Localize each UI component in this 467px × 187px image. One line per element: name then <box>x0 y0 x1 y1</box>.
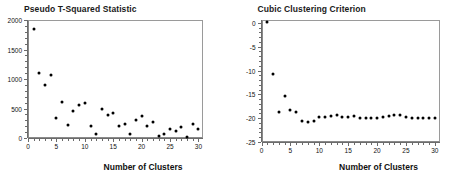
data-point <box>347 115 350 118</box>
data-point <box>422 117 425 120</box>
data-point <box>191 122 194 125</box>
x-axis-minor-tick <box>267 143 268 145</box>
y-axis-tick <box>258 118 261 119</box>
data-point <box>277 110 280 113</box>
x-axis-minor-tick <box>108 139 109 141</box>
y-axis-minor-tick <box>25 55 27 56</box>
plot-area-cubic-clustering-criterion <box>262 20 440 142</box>
y-axis-minor-tick <box>259 104 261 105</box>
x-axis-tick-label: 30 <box>195 143 202 150</box>
data-point <box>117 125 120 128</box>
data-point <box>180 125 183 128</box>
y-axis-minor-tick <box>259 37 261 38</box>
data-point <box>174 130 177 133</box>
data-point <box>358 116 361 119</box>
y-axis-tick <box>258 23 261 24</box>
data-point <box>163 132 166 135</box>
data-point <box>49 74 52 77</box>
data-point <box>295 111 298 114</box>
data-point <box>95 133 98 136</box>
chart-panel-cubic-clustering-criterion: Cubic Clustering Criterion Number of Clu… <box>234 0 467 187</box>
x-axis-minor-tick <box>354 143 355 145</box>
x-axis-minor-tick <box>45 139 46 141</box>
x-axis-minor-tick <box>302 143 303 145</box>
y-axis-tick <box>24 50 27 51</box>
y-axis-minor-tick <box>259 132 261 133</box>
y-axis-minor-tick <box>259 128 261 129</box>
x-axis-title-pseudo-t-squared: Number of Clusters <box>104 162 183 172</box>
x-axis-minor-tick <box>96 139 97 141</box>
y-axis-minor-tick <box>259 80 261 81</box>
chart-title-pseudo-t-squared: Pseudo T-Squared Statistic <box>24 4 137 14</box>
data-point <box>89 125 92 128</box>
x-axis-minor-tick <box>136 139 137 141</box>
x-axis-minor-tick <box>68 139 69 141</box>
data-point <box>352 115 355 118</box>
x-axis-minor-tick <box>314 143 315 145</box>
y-axis-minor-tick <box>25 67 27 68</box>
x-axis-tick <box>262 143 263 146</box>
x-axis-tick <box>290 143 291 146</box>
x-axis-tick <box>85 139 86 142</box>
data-point <box>289 108 292 111</box>
data-point <box>404 116 407 119</box>
y-axis-tick <box>258 94 261 95</box>
y-axis-minor-tick <box>25 44 27 45</box>
x-axis-title-cubic-clustering-criterion: Number of Clusters <box>339 162 418 172</box>
data-point <box>370 117 373 120</box>
data-point <box>157 135 160 138</box>
y-axis-tick-label: 1000 <box>0 76 22 83</box>
data-point <box>146 124 149 127</box>
x-axis-minor-tick <box>62 139 63 141</box>
x-axis-minor-tick <box>119 139 120 141</box>
y-axis-tick-label: -25 <box>234 139 256 146</box>
x-axis-line <box>262 142 440 143</box>
x-axis-minor-tick <box>51 139 52 141</box>
x-axis-tick <box>170 139 171 142</box>
y-axis-tick-label: -15 <box>234 91 256 98</box>
x-axis-minor-tick <box>389 143 390 145</box>
y-axis-minor-tick <box>259 42 261 43</box>
y-axis-minor-tick <box>25 114 27 115</box>
data-point <box>140 115 143 118</box>
y-axis-minor-tick <box>25 132 27 133</box>
y-axis-tick-label: 2000 <box>0 17 22 24</box>
x-axis-minor-tick <box>337 143 338 145</box>
data-point <box>300 120 303 123</box>
y-axis-tick-label: -20 <box>234 115 256 122</box>
data-point <box>38 72 41 75</box>
x-axis-minor-tick <box>296 143 297 145</box>
x-axis-minor-tick <box>164 139 165 141</box>
x-axis-minor-tick <box>371 143 372 145</box>
y-axis-minor-tick <box>259 90 261 91</box>
x-axis-tick <box>377 143 378 146</box>
data-point <box>329 115 332 118</box>
x-axis-tick <box>28 139 29 142</box>
x-axis-minor-tick <box>34 139 35 141</box>
data-point <box>83 101 86 104</box>
data-point <box>61 100 64 103</box>
x-axis-minor-tick <box>360 143 361 145</box>
x-axis-minor-tick <box>285 143 286 145</box>
x-axis-minor-tick <box>79 139 80 141</box>
x-axis-tick-label: 10 <box>81 143 88 150</box>
data-point <box>335 114 338 117</box>
y-axis-tick-label: 0 <box>0 135 22 142</box>
data-point <box>152 121 155 124</box>
data-point <box>266 20 269 23</box>
data-point <box>186 135 189 138</box>
x-axis-minor-tick <box>394 143 395 145</box>
data-point <box>341 115 344 118</box>
y-axis-minor-tick <box>259 99 261 100</box>
data-point <box>112 111 115 114</box>
x-axis-minor-tick <box>91 139 92 141</box>
y-axis-line <box>27 20 28 138</box>
y-axis-line <box>261 20 262 142</box>
y-axis-minor-tick <box>25 103 27 104</box>
y-axis-minor-tick <box>25 91 27 92</box>
y-axis-minor-tick <box>25 61 27 62</box>
x-axis-minor-tick <box>187 139 188 141</box>
x-axis-minor-tick <box>331 143 332 145</box>
x-axis-tick-label: 5 <box>55 143 59 150</box>
x-axis-tick-label: 25 <box>166 143 173 150</box>
